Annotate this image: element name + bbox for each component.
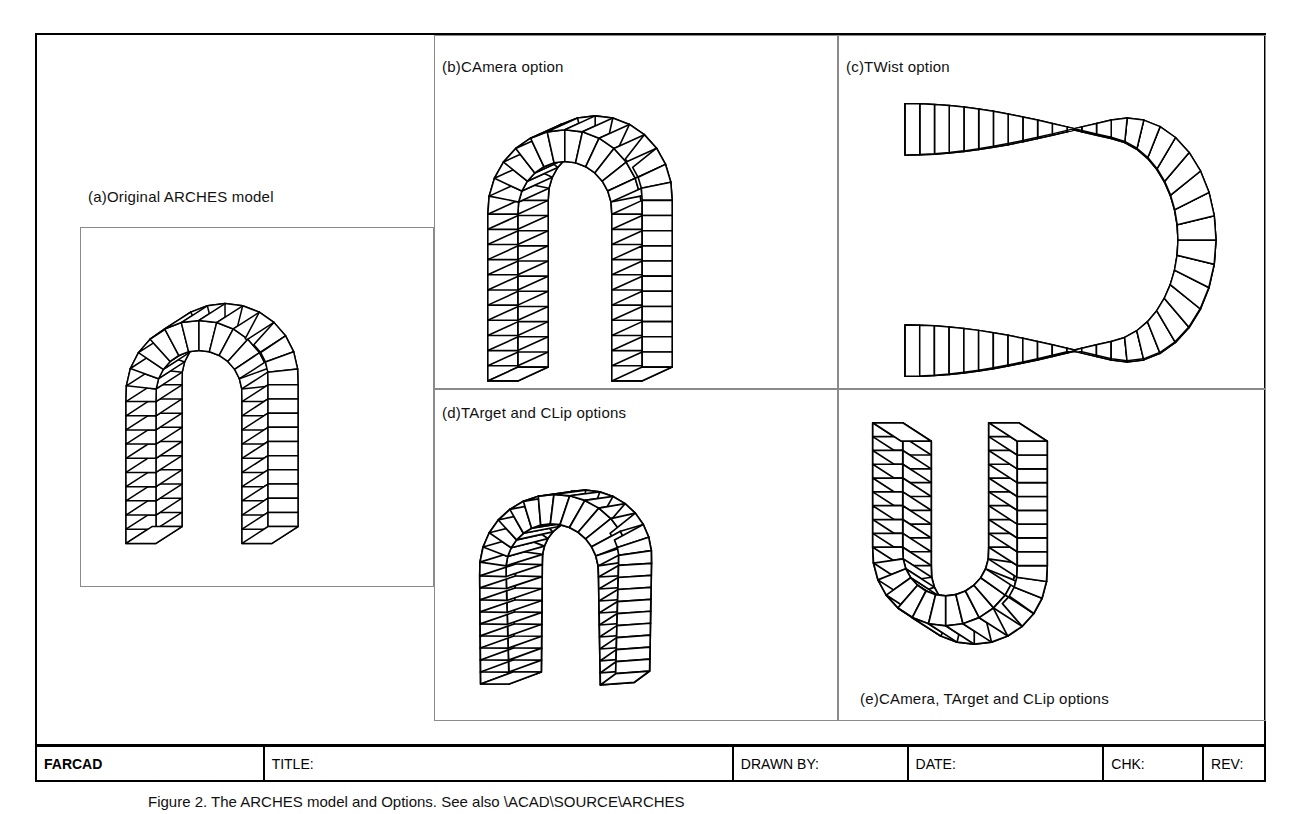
arch-drawing-a xyxy=(150,235,400,575)
title-block-field-date[interactable]: DATE: xyxy=(909,747,1105,780)
drawing-sheet: (a)Original ARCHES model (b)CAmera optio… xyxy=(0,0,1302,814)
title-block-field-rev[interactable]: REV: xyxy=(1204,747,1264,780)
title-block: FARCAD TITLE: DRAWN BY: DATE: CHK: REV: xyxy=(35,745,1266,782)
title-block-field-title[interactable]: TITLE: xyxy=(265,747,734,780)
title-field-label: TITLE: xyxy=(265,756,314,772)
panel-label-d: (d)TArget and CLip options xyxy=(442,404,626,421)
title-block-logo-cell: FARCAD xyxy=(37,747,265,780)
panel-label-c: (c)TWist option xyxy=(846,58,950,75)
arch-drawing-b xyxy=(520,58,790,403)
title-block-field-drawn-by[interactable]: DRAWN BY: xyxy=(734,747,909,780)
panel-label-e: (e)CAmera, TArget and CLip options xyxy=(860,690,1109,707)
arch-drawing-c xyxy=(885,118,1215,363)
drawn-by-field-label: DRAWN BY: xyxy=(734,756,819,772)
arch-drawing-e xyxy=(900,392,1200,692)
figure-caption: Figure 2. The ARCHES model and Options. … xyxy=(148,793,685,810)
chk-field-label: CHK: xyxy=(1104,756,1144,772)
arch-drawing-d xyxy=(520,420,800,710)
panel-label-a: (a)Original ARCHES model xyxy=(88,188,274,205)
farcad-logo: FARCAD xyxy=(37,756,102,772)
rev-field-label: REV: xyxy=(1204,756,1243,772)
date-field-label: DATE: xyxy=(909,756,956,772)
title-block-field-chk[interactable]: CHK: xyxy=(1104,747,1204,780)
